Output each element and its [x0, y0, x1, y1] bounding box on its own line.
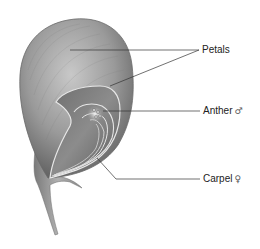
label-anther: Anther♂: [203, 105, 243, 117]
label-anther-text: Anther: [203, 105, 232, 116]
female-symbol-icon: ♀: [234, 174, 241, 184]
male-symbol-icon: ♂: [234, 106, 242, 116]
label-carpel-text: Carpel: [203, 173, 232, 184]
leader-carpel: [97, 158, 200, 179]
label-carpel: Carpel♀: [203, 173, 241, 185]
flower-diagram: [0, 0, 260, 249]
label-petals-text: Petals: [202, 44, 230, 55]
label-petals: Petals: [202, 44, 230, 56]
